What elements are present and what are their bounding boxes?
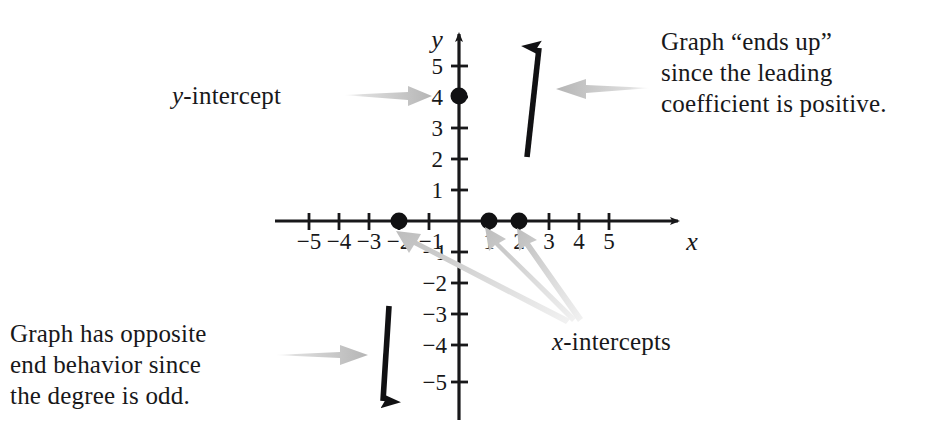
x-tick-label: −4 <box>327 229 352 254</box>
point-x-intercept-2 <box>511 213 528 230</box>
pointer-arrow-y-intercept <box>343 86 432 106</box>
y-tick-label: 2 <box>432 147 444 172</box>
x-tick-label: −5 <box>297 229 321 254</box>
point-x-intercept-1 <box>481 213 498 230</box>
x-intercepts-label: x-intercepts <box>552 326 671 357</box>
y-tick-label: −3 <box>423 302 447 327</box>
y-tick-label: −5 <box>423 370 447 395</box>
end-behavior-arrow-up <box>527 48 539 157</box>
y-tick-labels: 5 4 3 2 1 −1 −2 −3 −4 −5 <box>423 54 448 395</box>
x-tick-labels: −5 −4 −3 −2 −1 1 2 3 4 5 <box>297 229 615 254</box>
point-y-intercept-4 <box>451 88 468 105</box>
y-tick-label: 1 <box>432 178 444 203</box>
y-tick-label: −4 <box>423 333 448 358</box>
x-tick-label: 5 <box>603 229 615 254</box>
math-figure: −5 −4 −3 −2 −1 1 2 3 4 5 5 4 3 2 1 −1 −2… <box>0 0 949 438</box>
y-tick-label: 4 <box>432 85 444 110</box>
x-intercepts-label-italic-x: x <box>552 328 563 355</box>
pointer-arrow-end-up <box>556 79 651 99</box>
y-intercept-label: y-intercept <box>172 80 281 111</box>
y-tick-label: 3 <box>432 116 444 141</box>
x-tick-label: −3 <box>357 229 381 254</box>
x-tick-label: 3 <box>543 229 555 254</box>
x-intercepts-label-text: -intercepts <box>563 328 671 355</box>
end-behavior-note-positive-leading-coefficient: Graph “ends up” since the leading coeffi… <box>661 26 941 119</box>
x-tick-label: 4 <box>573 229 585 254</box>
y-intercept-label-text: -intercept <box>183 82 281 109</box>
end-behavior-arrow-down <box>383 306 389 401</box>
point-x-intercept-neg2 <box>391 213 408 230</box>
y-tick-label: −2 <box>423 271 447 296</box>
y-tick-label: 5 <box>432 54 444 79</box>
end-behavior-note-odd-degree: Graph has opposite end behavior since th… <box>10 318 310 411</box>
y-intercept-label-italic-y: y <box>172 82 183 109</box>
x-axis-name: x <box>685 227 698 256</box>
y-axis-name: y <box>428 25 443 54</box>
